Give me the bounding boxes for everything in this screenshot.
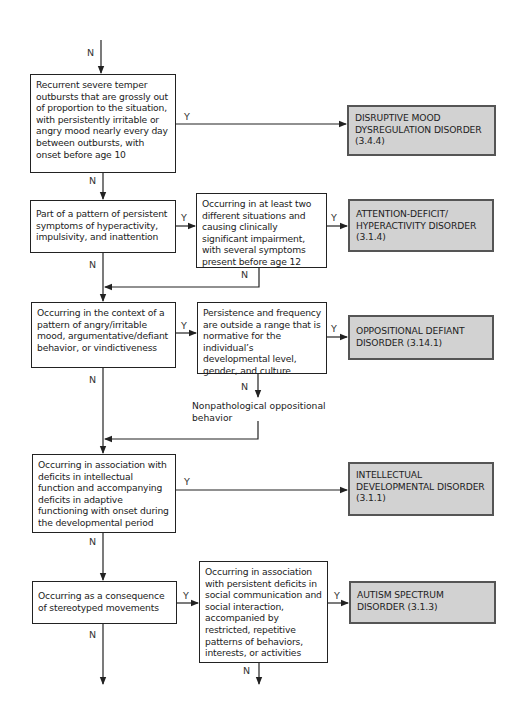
edge-label-no: N bbox=[87, 48, 94, 58]
decision-temper-outbursts: Recurrent severe temper outbursts that a… bbox=[30, 74, 176, 173]
decision-two-situations: Occurring in at least two different situ… bbox=[196, 193, 327, 268]
decision-hyperactivity-pattern: Part of a pattern of persistent symptoms… bbox=[30, 200, 176, 253]
edge-label-yes: Y bbox=[334, 591, 340, 601]
edge-label-yes: Y bbox=[184, 477, 190, 487]
edge-label-yes: Y bbox=[181, 213, 187, 223]
edge-label-no: N bbox=[89, 260, 96, 270]
outcome-odd: OPPOSITIONAL DEFIANT DISORDER (3.14.1) bbox=[348, 315, 494, 360]
edge-label-no: N bbox=[89, 630, 96, 640]
outcome-autism-spectrum-disorder: AUTISM SPECTRUM DISORDER (3.1.3) bbox=[349, 581, 496, 624]
outcome-intellectual-developmental-disorder: INTELLECTUAL DEVELOPMENTAL DISORDER (3.1… bbox=[348, 462, 494, 516]
edge-label-yes: Y bbox=[331, 213, 337, 223]
decision-social-communication: Occurring in association with persistent… bbox=[199, 561, 328, 663]
edge-label-no: N bbox=[89, 176, 96, 186]
decision-intellectual-deficits: Occurring in association with deficits i… bbox=[32, 454, 176, 533]
edge-label-yes: Y bbox=[183, 591, 189, 601]
decision-angry-irritable-pattern: Occurring in the context of a pattern of… bbox=[31, 302, 176, 368]
edge-label-no: N bbox=[241, 270, 248, 280]
edge-label-yes: Y bbox=[184, 112, 190, 122]
edge-label-no: N bbox=[243, 666, 250, 676]
decision-persistence-frequency: Persistence and frequency are outside a … bbox=[197, 302, 327, 374]
edge-label-yes: Y bbox=[181, 321, 187, 331]
edge-label-no: N bbox=[89, 537, 96, 547]
edge-label-no: N bbox=[241, 382, 248, 392]
edge-label-no: N bbox=[89, 375, 96, 385]
outcome-adhd: ATTENTION-DEFICIT/ HYPERACTIVITY DISORDE… bbox=[348, 199, 494, 252]
note-nonpathological-behavior: Nonpathological oppositional behavior bbox=[192, 400, 342, 423]
outcome-dmdd: DISRUPTIVE MOOD DYSREGULATION DISORDER (… bbox=[347, 105, 496, 156]
edge-label-yes: Y bbox=[331, 324, 337, 334]
decision-stereotyped-movements: Occurring as a consequence of stereotype… bbox=[32, 581, 177, 624]
